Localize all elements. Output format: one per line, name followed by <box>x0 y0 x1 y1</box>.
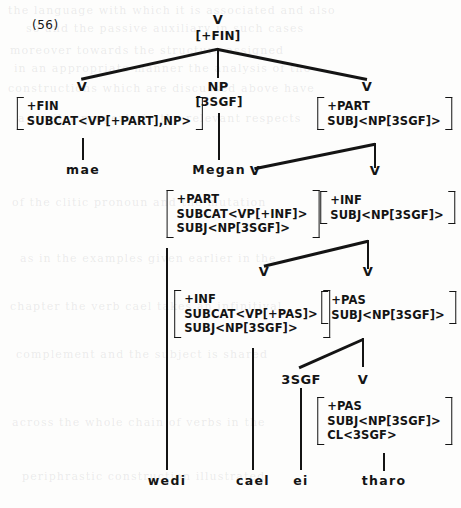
edge-to-leaf-mae <box>82 138 84 160</box>
bracket-left <box>317 397 324 445</box>
avm-row: +FIN <box>27 99 191 114</box>
bracket-left <box>167 190 174 238</box>
bracket-left <box>317 97 324 130</box>
leaf-ei: ei <box>293 473 308 488</box>
edge-to-leaf-tharo <box>383 453 385 471</box>
bracket-right <box>312 190 319 238</box>
leaf-mae: mae <box>66 162 100 177</box>
leaf-cael: cael <box>236 473 270 488</box>
avm-row: +PAS <box>331 293 444 308</box>
avm-row: +PAS <box>327 399 440 414</box>
figure-canvas: the language with which it is associated… <box>0 0 461 508</box>
edge-part-to-v-wedi <box>254 143 375 170</box>
avm-rows: +PAS SUBJ<NP[3SGF]> CL<3SGF> <box>324 397 445 445</box>
edge-to-leaf-ei <box>300 388 302 470</box>
node-v-part-category: V <box>362 79 372 94</box>
avm-inf-top: +INF SUBJ<NP[3SGF]> <box>320 191 455 224</box>
edge-pas-to-3sgf <box>298 338 363 369</box>
avm-pas-top: +PAS SUBJ<NP[3SGF]> <box>321 291 456 324</box>
leaf-tharo: tharo <box>362 473 407 488</box>
leaf-megan: Megan <box>192 162 246 177</box>
node-root-features: [+FIN] <box>196 29 241 43</box>
edge-pas-to-v-tharo <box>362 338 364 367</box>
avm-rows: +PART SUBCAT<VP[+INF]> SUBJ<NP[3SGF]> <box>174 190 313 238</box>
node-v-wedi-category: V <box>250 163 260 178</box>
bleed-text-line: constructions which are discussed above … <box>8 82 452 95</box>
avm-row: SUBJ<NP[3SGF]> <box>184 321 318 336</box>
avm-row: SUBJ<NP[3SGF]> <box>327 414 440 429</box>
avm-rows: +FIN SUBCAT<VP[+PART],NP> <box>24 97 196 130</box>
edge-root-to-v-mae <box>81 48 218 81</box>
avm-row: SUBCAT<VP[+INF]> <box>177 207 308 222</box>
avm-part: +PART SUBJ<NP[3SGF]> <box>317 97 452 130</box>
bracket-left <box>174 290 181 338</box>
avm-row: CL<3SGF> <box>327 428 440 443</box>
avm-row: +PART <box>327 99 440 114</box>
node-np-megan-category: NP <box>207 79 228 94</box>
example-number: (56) <box>32 18 59 32</box>
avm-row: +INF <box>330 193 443 208</box>
edge-to-leaf-megan <box>218 113 220 160</box>
bleed-text-line: the language with which it is associated… <box>8 4 456 17</box>
edge-root-to-np <box>217 48 219 78</box>
avm-row: +PART <box>177 192 308 207</box>
avm-row: SUBCAT<VP[+PART],NP> <box>27 114 191 129</box>
bleed-text-line: as in the examples given earlier in the <box>20 252 450 265</box>
avm-row: SUBJ<NP[3SGF]> <box>327 114 440 129</box>
edge-inf-to-v-cael <box>264 240 369 268</box>
avm-row: +INF <box>184 292 318 307</box>
avm-row: SUBJ<NP[3SGF]> <box>330 208 443 223</box>
node-v-mae-category: V <box>77 79 87 94</box>
node-v-inf-top-category: V <box>370 163 380 178</box>
bracket-right <box>449 191 456 224</box>
bracket-right <box>446 97 453 130</box>
avm-row: SUBJ<NP[3SGF]> <box>177 221 308 236</box>
edge-to-leaf-cael <box>252 348 254 470</box>
bracket-right <box>196 97 203 130</box>
bleed-text-line: in an appropriate manner the analysis of… <box>14 62 450 75</box>
avm-rows: +PART SUBJ<NP[3SGF]> <box>324 97 445 130</box>
avm-mae: +FIN SUBCAT<VP[+PART],NP> <box>17 97 203 130</box>
bracket-left <box>321 291 328 324</box>
avm-rows: +INF SUBJ<NP[3SGF]> <box>327 191 448 224</box>
leaf-wedi: wedi <box>148 473 186 488</box>
edge-root-to-v-part <box>218 48 368 81</box>
node-3sgf-category: 3SGF <box>281 372 321 387</box>
edge-to-leaf-wedi <box>166 248 168 470</box>
avm-rows: +INF SUBCAT<VP[+PAS]> SUBJ<NP[3SGF]> <box>181 290 323 338</box>
bracket-left <box>17 97 24 130</box>
node-root-category: V <box>213 12 223 27</box>
avm-tharo: +PAS SUBJ<NP[3SGF]> CL<3SGF> <box>317 397 452 445</box>
avm-cael: +INF SUBCAT<VP[+PAS]> SUBJ<NP[3SGF]> <box>174 290 330 338</box>
avm-row: SUBCAT<VP[+PAS]> <box>184 307 318 322</box>
avm-wedi: +PART SUBCAT<VP[+INF]> SUBJ<NP[3SGF]> <box>167 190 320 238</box>
avm-rows: +PAS SUBJ<NP[3SGF]> <box>328 291 449 324</box>
node-v-tharo-category: V <box>358 372 368 387</box>
node-v-cael-category: V <box>259 264 269 279</box>
bracket-right <box>446 397 453 445</box>
avm-row: SUBJ<NP[3SGF]> <box>331 308 444 323</box>
bleed-text-line: complement and the subject is shared <box>16 348 450 361</box>
bracket-left <box>320 191 327 224</box>
node-v-pas-top-category: V <box>363 264 373 279</box>
bracket-right <box>450 291 457 324</box>
